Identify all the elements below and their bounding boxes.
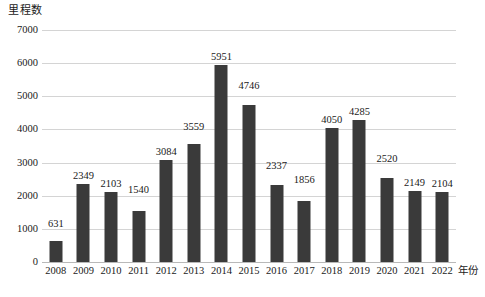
y-tick-label: 7000 [4, 25, 38, 35]
y-axis-title: 里程数 [8, 4, 43, 17]
bar-value-label: 2104 [432, 178, 453, 189]
bar-value-label: 4285 [349, 106, 370, 117]
bar[interactable] [49, 241, 62, 262]
bar-slot[interactable]: 631 [42, 30, 70, 262]
bar-slot[interactable]: 5951 [208, 30, 236, 262]
bar-value-label: 2103 [100, 178, 121, 189]
bar-value-label: 4746 [238, 80, 259, 91]
x-tick-label: 2014 [211, 264, 232, 277]
x-tick-label: 2022 [432, 264, 453, 277]
bar-slot[interactable]: 2520 [373, 30, 401, 262]
x-tick-label: 2016 [266, 264, 287, 277]
y-tick-label: 0 [4, 257, 38, 267]
y-tick-label: 4000 [4, 124, 38, 134]
bar[interactable] [242, 105, 255, 262]
bar-value-label: 2337 [266, 160, 287, 171]
y-tick-label: 3000 [4, 158, 38, 168]
bar-value-label: 631 [48, 218, 64, 229]
bars-layer: 6312349210315403084355959514746233718564… [42, 30, 456, 262]
bar[interactable] [408, 191, 421, 262]
x-tick-label: 2020 [377, 264, 398, 277]
y-tick-label: 5000 [4, 91, 38, 101]
x-tick-label: 2021 [404, 264, 425, 277]
x-axis-title: 年份 [458, 264, 478, 277]
bar-value-label: 2349 [73, 170, 94, 181]
bar[interactable] [380, 178, 393, 262]
x-axis-tick-labels: 2008200920102011201220132014201520162017… [42, 264, 456, 280]
bar[interactable] [104, 192, 117, 262]
x-tick-label: 2009 [73, 264, 94, 277]
bar[interactable] [160, 160, 173, 262]
bar-value-label: 1856 [294, 174, 315, 185]
bar-slot[interactable]: 3084 [152, 30, 180, 262]
bar-slot[interactable]: 2349 [70, 30, 98, 262]
x-tick-label: 2015 [239, 264, 260, 277]
x-tick-label: 2011 [128, 264, 149, 277]
x-tick-label: 2008 [45, 264, 66, 277]
bar[interactable] [298, 201, 311, 263]
x-tick-label: 2010 [101, 264, 122, 277]
bar[interactable] [353, 120, 366, 262]
y-tick-label: 2000 [4, 191, 38, 201]
bar-value-label: 1540 [128, 184, 149, 195]
y-tick-label: 6000 [4, 58, 38, 68]
bar-slot[interactable]: 2337 [263, 30, 291, 262]
bar[interactable] [436, 192, 449, 262]
bar-slot[interactable]: 1856 [290, 30, 318, 262]
y-axis-tick-labels: 01000200030004000500060007000 [0, 30, 38, 262]
bar-value-label: 4050 [321, 114, 342, 125]
bar[interactable] [187, 144, 200, 262]
x-tick-label: 2018 [321, 264, 342, 277]
bar-slot[interactable]: 4746 [235, 30, 263, 262]
bar-value-label: 2149 [404, 177, 425, 188]
bar[interactable] [77, 184, 90, 262]
gridline [42, 262, 456, 263]
bar-value-label: 2520 [376, 153, 397, 164]
bar-slot[interactable]: 3559 [180, 30, 208, 262]
bar-slot[interactable]: 2103 [97, 30, 125, 262]
bar-value-label: 3559 [183, 121, 204, 132]
plot-area: 6312349210315403084355959514746233718564… [42, 30, 456, 262]
bar[interactable] [215, 65, 228, 262]
bar-slot[interactable]: 1540 [125, 30, 153, 262]
bar-slot[interactable]: 4285 [346, 30, 374, 262]
bar[interactable] [270, 185, 283, 262]
x-tick-label: 2019 [349, 264, 370, 277]
bar-slot[interactable]: 2149 [401, 30, 429, 262]
bar-value-label: 5951 [211, 51, 232, 62]
x-tick-label: 2017 [294, 264, 315, 277]
x-tick-label: 2012 [156, 264, 177, 277]
y-tick-label: 1000 [4, 224, 38, 234]
bar-slot[interactable]: 2104 [428, 30, 456, 262]
bar-value-label: 3084 [156, 146, 177, 157]
bar-chart-figure: 里程数 01000200030004000500060007000 631234… [0, 0, 485, 297]
bar-slot[interactable]: 4050 [318, 30, 346, 262]
x-tick-label: 2013 [183, 264, 204, 277]
bar[interactable] [325, 128, 338, 262]
bar[interactable] [132, 211, 145, 262]
